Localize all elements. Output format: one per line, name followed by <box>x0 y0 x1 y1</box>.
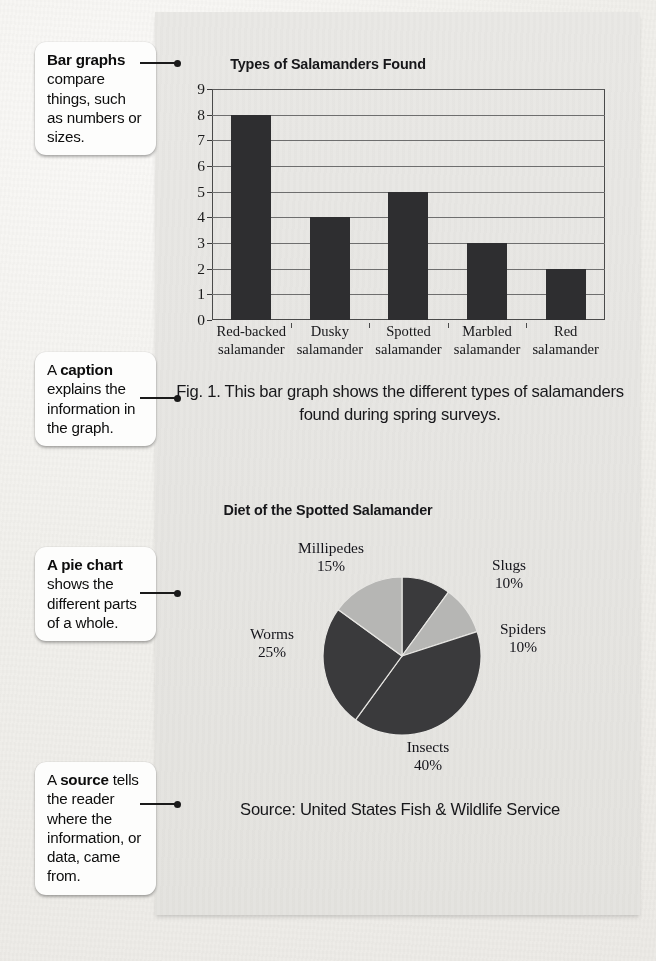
x-axis-tick-mark <box>526 323 527 328</box>
pie-label-millipedes: Millipedes 15% <box>285 539 377 575</box>
pie-label-insects: Insects 40% <box>390 738 466 774</box>
x-axis-tick-mark <box>448 323 449 328</box>
y-axis-tick-label: 6 <box>197 157 205 175</box>
callout-caption-bold: caption <box>60 361 113 378</box>
y-axis-tick-label: 4 <box>197 208 205 226</box>
bar-chart-x-axis-labels: Red-backedsalamanderDuskysalamanderSpott… <box>212 323 605 359</box>
pie-label-millipedes-name: Millipedes <box>298 539 364 556</box>
bar-cell <box>526 89 605 320</box>
pie-label-slugs-name: Slugs <box>492 556 526 573</box>
x-axis-tick-label: Spottedsalamander <box>369 323 448 359</box>
pie-label-worms-value: 25% <box>258 643 286 660</box>
bar <box>310 217 350 320</box>
x-axis-tick-mark <box>369 323 370 328</box>
callout-bar-graphs-rest: compare things, such as numbers or sizes… <box>47 70 141 145</box>
callout-caption-text: A caption explains the information in th… <box>47 361 135 436</box>
y-axis-tick-label: 8 <box>197 106 205 124</box>
bar <box>388 192 428 320</box>
bar-cell <box>212 89 291 320</box>
y-axis-tick-label: 1 <box>197 285 205 303</box>
callout-source-bold: source <box>60 771 109 788</box>
y-axis-tick-label: 9 <box>197 80 205 98</box>
y-axis-tick-label: 7 <box>197 131 205 149</box>
callout-pie-chart: A pie chart shows the different parts of… <box>35 547 156 641</box>
y-axis-tick-label: 5 <box>197 183 205 201</box>
pie-label-insects-value: 40% <box>414 756 442 773</box>
pie-label-slugs-value: 10% <box>495 574 523 591</box>
callout-source: A source tells the reader where the info… <box>35 762 156 895</box>
pie-label-insects-name: Insects <box>407 738 450 755</box>
y-axis-tick-label: 2 <box>197 260 205 278</box>
callout-pie-chart-rest: shows the different parts of a whole. <box>47 575 137 631</box>
bar <box>546 269 586 320</box>
leader-line-pie-chart <box>140 592 178 594</box>
callout-caption-lead: A <box>47 361 60 378</box>
x-axis-tick-label: Red-backedsalamander <box>212 323 291 359</box>
x-axis-tick-label: Duskysalamander <box>291 323 370 359</box>
leader-line-source <box>140 803 178 805</box>
callout-caption-tail: explains the information in the graph. <box>47 380 135 436</box>
pie-label-worms: Worms 25% <box>236 625 308 661</box>
callout-pie-chart-bold: A pie chart <box>47 556 123 573</box>
source-credit: Source: United States Fish & Wildlife Se… <box>175 800 625 820</box>
callout-source-lead: A <box>47 771 60 788</box>
pie-label-spiders: Spiders 10% <box>485 620 561 656</box>
pie-label-worms-name: Worms <box>250 625 294 642</box>
bar-cell <box>369 89 448 320</box>
leader-line-caption <box>140 397 178 399</box>
x-axis-tick-label: Marbledsalamander <box>448 323 527 359</box>
bar-cell <box>291 89 370 320</box>
y-axis-tick-label: 3 <box>197 234 205 252</box>
x-axis-tick-label: Redsalamander <box>526 323 605 359</box>
y-axis-tick-label: 0 <box>197 311 205 329</box>
pie-label-spiders-name: Spiders <box>500 620 546 637</box>
pie-label-spiders-value: 10% <box>509 638 537 655</box>
pie-chart-area <box>322 576 482 736</box>
x-axis-tick-mark <box>291 323 292 328</box>
bar <box>467 243 507 320</box>
pie-label-slugs: Slugs 10% <box>478 556 540 592</box>
callout-source-text: A source tells the reader where the info… <box>47 771 141 884</box>
bar-cell <box>448 89 527 320</box>
pie-chart-title: Diet of the Spotted Salamander <box>0 502 656 518</box>
bar-chart-series <box>212 89 605 320</box>
pie-chart-svg <box>322 576 482 736</box>
callout-caption: A caption explains the information in th… <box>35 352 156 446</box>
callout-pie-chart-text: A pie chart shows the different parts of… <box>47 556 137 631</box>
bar <box>231 115 271 320</box>
callout-source-tail: tells the reader where the information, … <box>47 771 141 884</box>
y-axis-tick-mark <box>207 320 212 321</box>
figure-caption: Fig. 1. This bar graph shows the differe… <box>175 381 625 426</box>
bar-chart-plot-area: 0123456789 <box>212 89 605 320</box>
pie-label-millipedes-value: 15% <box>317 557 345 574</box>
bar-chart-title: Types of Salamanders Found <box>0 56 656 72</box>
